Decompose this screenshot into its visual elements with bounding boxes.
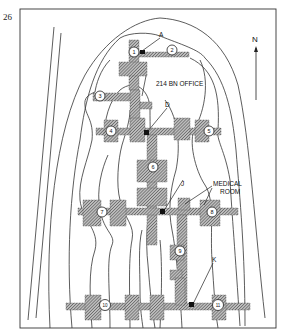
svg-text:8: 8 — [210, 209, 213, 215]
post-9: 9 — [175, 246, 185, 256]
label-bn-office: 214 BN OFFICE — [156, 80, 204, 87]
svg-text:2: 2 — [170, 47, 173, 53]
svg-text:3: 3 — [98, 93, 101, 99]
post-2: 2 — [167, 45, 177, 55]
label-medical-1: MEDICAL — [213, 180, 242, 187]
svg-text:4: 4 — [109, 128, 112, 134]
marker-j — [160, 209, 165, 214]
post-11: 11 — [213, 300, 224, 311]
svg-text:1: 1 — [132, 49, 135, 55]
post-4: 4 — [106, 126, 116, 136]
marker-k — [189, 302, 194, 307]
label-j: J — [181, 180, 184, 187]
post-6: 6 — [148, 162, 158, 172]
post-7: 7 — [97, 207, 107, 217]
label-k: K — [212, 256, 217, 263]
post-1: 1 — [129, 47, 139, 57]
post-10: 10 — [100, 300, 111, 311]
north-arrow-icon: N — [252, 35, 258, 100]
label-medical-2: ROOM — [220, 188, 240, 195]
svg-text:N: N — [252, 35, 258, 44]
svg-text:7: 7 — [100, 209, 103, 215]
svg-text:11: 11 — [216, 303, 221, 308]
post-8: 8 — [207, 207, 217, 217]
svg-text:10: 10 — [102, 303, 108, 308]
label-d: D — [165, 101, 170, 108]
svg-text:5: 5 — [207, 128, 210, 134]
svg-text:6: 6 — [151, 164, 154, 170]
svg-text:9: 9 — [178, 248, 181, 254]
trench-map: 1 2 3 4 5 6 7 8 9 10 11 A 214 BN OFFICE … — [0, 0, 285, 331]
label-a: A — [159, 31, 164, 38]
post-3: 3 — [95, 91, 105, 101]
post-5: 5 — [204, 126, 214, 136]
